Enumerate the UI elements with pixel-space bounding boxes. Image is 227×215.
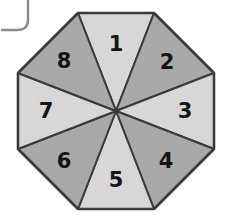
sector-label-8: 8 xyxy=(57,49,72,73)
sector-label-4: 4 xyxy=(159,149,174,173)
sector-label-1: 1 xyxy=(109,32,124,56)
sector-label-2: 2 xyxy=(160,50,175,74)
octagon-spinner: 1 2 3 4 5 6 7 8 xyxy=(0,0,227,215)
sector-label-3: 3 xyxy=(178,99,193,123)
sector-label-6: 6 xyxy=(57,149,72,173)
sector-label-7: 7 xyxy=(39,99,54,123)
sector-label-5: 5 xyxy=(109,168,124,192)
figure-canvas: 1 2 3 4 5 6 7 8 xyxy=(0,0,227,215)
